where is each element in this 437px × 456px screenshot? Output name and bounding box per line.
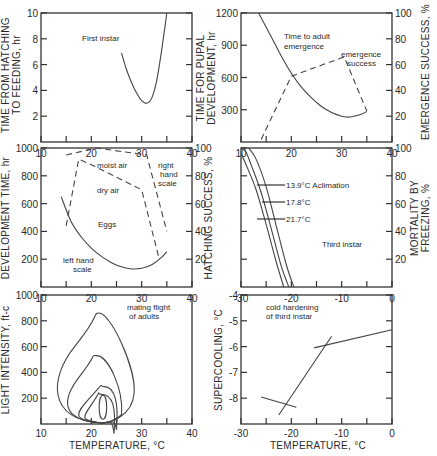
y-right-tick-label: 20 xyxy=(395,254,407,265)
y-tick-label: -7 xyxy=(229,367,238,378)
y-tick-label: 4 xyxy=(32,85,38,96)
x-axis-label-left: TEMPERATURE, °C xyxy=(69,440,165,451)
annotation: Time to adult xyxy=(284,32,331,41)
light-intensity-contour xyxy=(57,313,134,423)
x-tick-label: -30 xyxy=(234,428,249,439)
y-tick-label: 300 xyxy=(221,105,238,116)
dry-air-line xyxy=(66,159,159,259)
y-tick-label: 1000 xyxy=(16,290,39,301)
x-tick-label: 10 xyxy=(35,428,47,439)
x-tick-label: 20 xyxy=(86,428,98,439)
y-tick-label: 2 xyxy=(32,111,38,122)
y-tick-label: 600 xyxy=(21,342,38,353)
y-tick-label: -8 xyxy=(229,393,238,404)
y-tick-label: -4 xyxy=(229,290,238,301)
y-tick-label: -6 xyxy=(229,342,238,353)
panel-first-instar: 246810First instarTIME FROM HATCHINGTO F… xyxy=(0,8,192,142)
annotation: 17.8°C xyxy=(286,198,311,207)
annotation: dry air xyxy=(97,186,120,195)
y-axis-label: TIME FROM HATCHINGTO FEEDING, hr xyxy=(0,17,22,133)
y-right-tick-label: 60 xyxy=(395,199,407,210)
panel-pupal-development: 300600900120020406080100Time to adulteme… xyxy=(195,4,431,142)
panel-title: Eggs xyxy=(98,220,116,229)
y-right-tick-label: 60 xyxy=(395,60,407,71)
y-right-tick-label: 40 xyxy=(395,85,407,96)
y-right-axis-label: EMERGENCE SUCCESS, % xyxy=(420,4,431,140)
annotation: scale xyxy=(158,179,177,188)
panel-eggs: 10203040200400600800100020406080100moist… xyxy=(0,143,214,287)
y-tick-label: 600 xyxy=(221,73,238,84)
first-instar-curve xyxy=(122,13,167,103)
panel-title: Third instar xyxy=(322,240,362,249)
x-tick-label: -10 xyxy=(334,428,349,439)
x-tick-label-top: 20 xyxy=(286,148,298,159)
y-tick-label: -5 xyxy=(229,316,238,327)
y-right-tick-label: 100 xyxy=(395,143,412,154)
annotation: scale xyxy=(73,265,92,274)
x-tick-label-top: 20 xyxy=(86,293,98,304)
y-right-tick-label: 80 xyxy=(395,171,407,182)
annotation: moist air xyxy=(97,161,128,170)
y-axis-label: TIME FOR PUPALDEVELOPMENT, hr xyxy=(195,31,217,125)
x-tick-label: 40 xyxy=(186,428,198,439)
y-tick-label: 400 xyxy=(21,226,38,237)
x-tick-label-top: -10 xyxy=(334,293,349,304)
panel-cold-hardening: -30-20-100-30-20-100-4-5-6-7-8cold harde… xyxy=(213,290,395,439)
y-tick-label: 1200 xyxy=(216,8,239,19)
y-tick-label: 8 xyxy=(32,34,38,45)
annotation: right xyxy=(158,161,174,170)
y-right-axis-label: HATCHING SUCCESS, % xyxy=(203,157,214,280)
panel-third-instar-mortality: 102030402040608010013.9°C Aclimation17.8… xyxy=(235,143,431,287)
annotation: of third instar xyxy=(266,312,313,321)
annotation: left hand xyxy=(63,256,94,265)
x-tick-label: 0 xyxy=(389,428,395,439)
annotation: emergence xyxy=(284,42,325,51)
y-tick-label: 200 xyxy=(21,254,38,265)
light-intensity-contour xyxy=(68,355,122,423)
supercooling-line xyxy=(314,330,392,348)
annotation: success xyxy=(347,59,376,68)
y-right-tick-label: 80 xyxy=(395,34,407,45)
y-right-tick-label: 100 xyxy=(395,8,412,19)
y-axis-label: LIGHT INTENSITY, ft-c xyxy=(0,306,11,415)
y-tick-label: 200 xyxy=(21,393,38,404)
y-right-tick-label: 100 xyxy=(195,143,212,154)
figure-canvas: 246810First instarTIME FROM HATCHINGTO F… xyxy=(0,0,437,456)
y-tick-label: 6 xyxy=(32,60,38,71)
y-tick-label: 900 xyxy=(221,40,238,51)
y-right-axis-label: MORTALITY BYFREEZING, % xyxy=(409,180,431,256)
panel-title: First instar xyxy=(82,34,120,43)
y-tick-label: 800 xyxy=(21,316,38,327)
emergence-success-line xyxy=(261,57,367,140)
annotation: of adults xyxy=(129,312,159,321)
light-intensity-contour xyxy=(99,395,107,419)
supercooling-line xyxy=(261,397,296,407)
annotation: emergence xyxy=(341,50,382,59)
y-tick-label: 400 xyxy=(21,367,38,378)
y-axis-label: DEVELOPMENT TIME, hr xyxy=(0,156,11,279)
y-tick-label: 1000 xyxy=(16,143,39,154)
third-instar-mortality-plot-frame xyxy=(241,148,392,287)
x-axis-label-right: TEMPERATURE, °C xyxy=(270,440,366,451)
annotation: mating flight xyxy=(127,303,171,312)
y-tick-label: 800 xyxy=(21,171,38,182)
first-instar-plot-frame xyxy=(41,13,192,142)
y-right-tick-label: 20 xyxy=(395,111,407,122)
y-tick-label: 10 xyxy=(27,8,39,19)
x-tick-label: -20 xyxy=(284,428,299,439)
x-tick-label-top: 40 xyxy=(186,293,198,304)
annotation: cold hardening xyxy=(266,303,318,312)
y-right-tick-label: 40 xyxy=(395,226,407,237)
y-tick-label: 600 xyxy=(21,199,38,210)
x-tick-label: 30 xyxy=(136,428,148,439)
x-tick-label-top: 30 xyxy=(336,148,348,159)
annotation: 13.9°C Aclimation xyxy=(286,181,349,190)
supercooling-line xyxy=(279,336,332,415)
y-axis-label: SUPERCOOLING, °C xyxy=(213,309,224,411)
panel-mating-flight: 10203040102030402004006008001000mating f… xyxy=(0,290,198,439)
annotation: hand xyxy=(160,170,178,179)
annotation: 21.7°C xyxy=(286,215,311,224)
